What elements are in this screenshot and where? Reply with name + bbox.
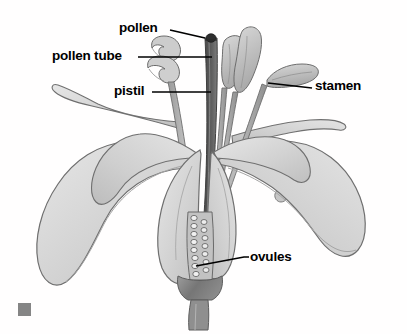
ovule	[202, 244, 208, 249]
label-pistil: pistil	[114, 84, 144, 98]
ovule	[201, 220, 207, 225]
ovule	[192, 255, 198, 260]
label-stamen: stamen	[315, 79, 361, 93]
ovary-wall	[187, 212, 214, 280]
ovule	[191, 239, 197, 244]
ovary-group	[187, 212, 214, 280]
ovule	[191, 247, 197, 252]
receptacle-stem-group	[177, 276, 222, 330]
ovule	[191, 231, 197, 236]
ovule	[202, 236, 208, 241]
diagram-canvas: pollen pollen tube pistil stamen ovules	[0, 0, 407, 334]
ovule	[202, 252, 208, 257]
ovule	[191, 215, 197, 220]
leader-pollen	[170, 30, 205, 38]
corner-square-marker	[18, 303, 31, 316]
ovule	[191, 223, 197, 228]
label-pollen: pollen	[119, 21, 158, 35]
stem	[189, 300, 209, 330]
ovule	[193, 271, 199, 276]
label-pollen-tube: pollen tube	[52, 49, 122, 63]
label-ovules: ovules	[250, 250, 292, 264]
pollen-grain	[206, 34, 216, 42]
petal-group-back	[52, 85, 346, 146]
ovule	[203, 268, 209, 273]
ovule	[201, 228, 207, 233]
